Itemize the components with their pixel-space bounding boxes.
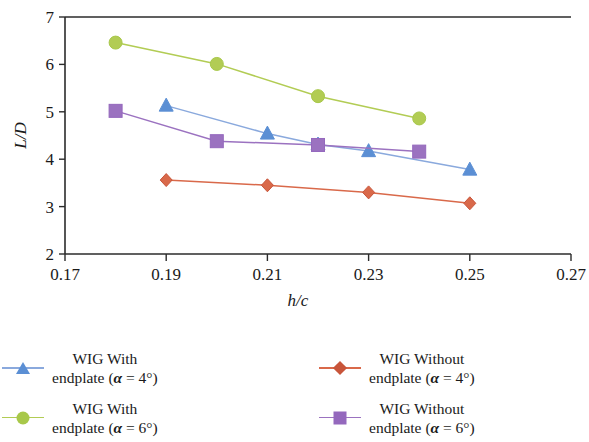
- y-tick-label: 5: [46, 103, 55, 122]
- circle-icon: [17, 411, 30, 424]
- legend-line1: WIG Without: [379, 350, 464, 367]
- legend-item-wig-without-endplate-alpha-4[interactable]: WIG Without endplate (α = 4°): [295, 349, 589, 387]
- legend-line1: WIG Without: [379, 400, 464, 417]
- diamond-marker: [317, 357, 363, 379]
- data-point-diamond: [261, 179, 273, 192]
- legend-item-wig-without-endplate-alpha-6[interactable]: WIG Without endplate (α = 6°): [295, 399, 589, 437]
- circle-marker: [0, 407, 46, 429]
- square-icon: [334, 411, 347, 424]
- legend-line2-prefix: endplate (: [369, 369, 431, 386]
- legend-item-label: WIG With endplate (α = 4°): [52, 349, 158, 387]
- legend-line2-prefix: endplate (: [369, 419, 431, 436]
- data-point-circle: [210, 57, 223, 70]
- legend-line1: WIG With: [72, 350, 137, 367]
- triangle-icon: [16, 362, 30, 374]
- y-axis-title: L/D: [11, 122, 30, 150]
- legend-item-wig-with-endplate-alpha-6[interactable]: WIG With endplate (α = 6°): [0, 399, 295, 437]
- y-tick-label: 2: [46, 245, 55, 264]
- series-1: [109, 36, 426, 125]
- chart-legend: WIG With endplate (α = 4°) WIG Without e…: [0, 343, 589, 442]
- legend-line2-suffix: = 6°): [122, 419, 158, 436]
- alpha-symbol: α: [431, 369, 440, 386]
- line-chart-plot: 2345670.170.190.210.230.250.27h/cL/D: [0, 0, 589, 340]
- legend-line2-prefix: endplate (: [52, 419, 114, 436]
- data-point-triangle: [159, 98, 173, 111]
- alpha-symbol: α: [431, 419, 440, 436]
- y-tick-label: 7: [46, 8, 55, 27]
- y-tick-label: 4: [46, 150, 55, 169]
- x-axis-title: h/c: [288, 291, 309, 310]
- x-tick-label: 0.23: [354, 265, 384, 284]
- triangle-marker: [0, 357, 46, 379]
- series-2: [160, 174, 476, 210]
- square-marker: [317, 407, 363, 429]
- series-line: [166, 180, 470, 203]
- y-tick-label: 3: [46, 198, 55, 217]
- x-tick-label: 0.21: [253, 265, 283, 284]
- data-point-circle: [312, 90, 325, 103]
- legend-line2-prefix: endplate (: [52, 369, 114, 386]
- legend-item-label: WIG Without endplate (α = 6°): [369, 399, 475, 437]
- x-tick-label: 0.27: [556, 265, 586, 284]
- data-point-circle: [413, 112, 426, 125]
- data-point-square: [413, 145, 426, 158]
- x-tick-label: 0.17: [50, 265, 80, 284]
- legend-line2-suffix: = 4°): [439, 369, 475, 386]
- series-0: [159, 98, 477, 175]
- diamond-icon: [333, 361, 347, 375]
- chart-figure: 2345670.170.190.210.230.250.27h/cL/D WIG…: [0, 0, 589, 442]
- legend-line2-suffix: = 6°): [439, 419, 475, 436]
- data-point-square: [109, 104, 122, 117]
- y-tick-label: 6: [46, 55, 55, 74]
- data-point-square: [210, 135, 223, 148]
- alpha-symbol: α: [114, 369, 123, 386]
- data-point-circle: [109, 36, 122, 49]
- legend-item-label: WIG With endplate (α = 6°): [52, 399, 158, 437]
- data-point-diamond: [464, 197, 476, 210]
- legend-item-label: WIG Without endplate (α = 4°): [369, 349, 475, 387]
- legend-item-wig-with-endplate-alpha-4[interactable]: WIG With endplate (α = 4°): [0, 349, 295, 387]
- data-point-diamond: [160, 174, 172, 187]
- alpha-symbol: α: [114, 419, 123, 436]
- data-point-diamond: [363, 186, 375, 199]
- legend-line1: WIG With: [72, 400, 137, 417]
- x-tick-label: 0.25: [455, 265, 485, 284]
- x-tick-label: 0.19: [151, 265, 181, 284]
- legend-line2-suffix: = 4°): [122, 369, 158, 386]
- data-point-square: [312, 138, 325, 151]
